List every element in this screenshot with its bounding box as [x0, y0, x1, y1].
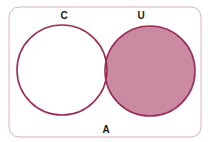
universe-label: A	[102, 124, 109, 135]
set-c-label: C	[60, 10, 67, 21]
set-u-label: U	[137, 10, 144, 21]
venn-diagram: C U A	[0, 0, 208, 142]
